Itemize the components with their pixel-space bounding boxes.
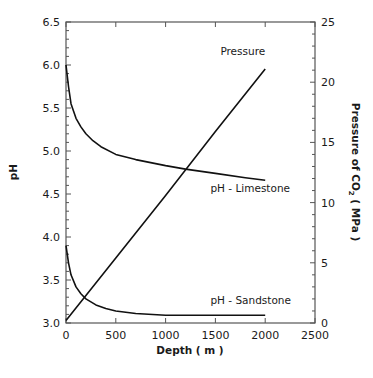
y-tick-label: 6.0	[43, 59, 61, 72]
y2-tick-label: 15	[321, 136, 335, 149]
y-tick-label: 5.5	[43, 102, 61, 115]
y2-tick-label: 5	[321, 257, 328, 270]
y-axis-label: pH	[7, 164, 19, 180]
series-pressure	[66, 69, 265, 321]
x-axis-label: Depth ( m )	[156, 344, 223, 356]
y2-axis-ticks: 0510152025	[310, 16, 335, 330]
chart-canvas: 05001000150020002500 3.03.54.04.55.05.56…	[0, 0, 373, 378]
x-tick-label: 2500	[301, 329, 329, 342]
plot-frame	[66, 22, 315, 323]
y2-tick-label: 10	[321, 197, 335, 210]
y-axis-ticks: 3.03.54.04.55.05.56.06.5	[43, 16, 72, 330]
series-annotations: PressurepH - LimestonepH - Sandstone	[210, 45, 291, 307]
y2-axis-label-main: Pressure of CO	[350, 103, 362, 191]
y2-axis-label-unit: ( MPa )	[350, 196, 362, 242]
plot-border	[66, 22, 315, 323]
y-tick-label: 6.5	[43, 16, 61, 29]
y2-tick-label: 0	[321, 317, 328, 330]
y-tick-label: 4.5	[43, 188, 61, 201]
y2-tick-label: 20	[321, 76, 335, 89]
annotation-pressure: Pressure	[220, 45, 265, 57]
y2-axis-label: Pressure of CO2 ( MPa )	[347, 103, 362, 241]
x-tick-label: 1000	[152, 329, 180, 342]
y2-tick-label: 25	[321, 16, 335, 29]
x-tick-label: 0	[63, 329, 70, 342]
annotation-ph-sandstone: pH - Sandstone	[210, 294, 291, 306]
x-tick-label: 500	[105, 329, 126, 342]
x-tick-label: 2000	[251, 329, 279, 342]
y-tick-label: 5.0	[43, 145, 61, 158]
annotation-ph-limestone: pH - Limestone	[210, 182, 290, 194]
y-tick-label: 3.5	[43, 274, 61, 287]
y-tick-label: 3.0	[43, 317, 61, 330]
y-tick-label: 4.0	[43, 231, 61, 244]
series-ph-limestone	[66, 65, 265, 180]
x-tick-label: 1500	[201, 329, 229, 342]
